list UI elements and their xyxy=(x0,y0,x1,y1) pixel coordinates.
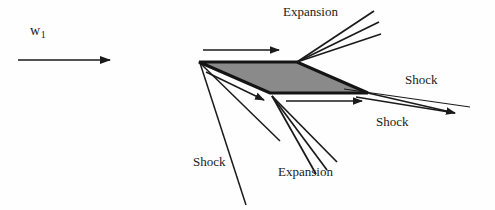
diamond-airfoil-body xyxy=(199,62,368,93)
expansion-top-label: Expansion xyxy=(283,5,338,18)
upper-expansion-line-3 xyxy=(297,34,381,62)
freestream-subscript: 1 xyxy=(40,29,46,40)
shock-lower-right-label: Shock xyxy=(376,115,409,128)
trailing-edge-shock-lower xyxy=(356,97,455,113)
leading-edge-shock-lower xyxy=(200,63,246,205)
shock-upper-right-label: Shock xyxy=(405,73,438,86)
shock-lower-left-label: Shock xyxy=(193,155,226,168)
lower-expansion-line-2 xyxy=(272,96,327,170)
supersonic-flow-diagram: w1 Expansion Expansion Shock Shock Shock xyxy=(0,0,495,210)
freestream-velocity-label: w1 xyxy=(30,24,46,40)
upper-expansion-line-2 xyxy=(297,22,379,62)
freestream-symbol: w xyxy=(30,23,40,38)
diagram-canvas xyxy=(0,0,495,210)
expansion-bottom-label: Expansion xyxy=(278,165,333,178)
